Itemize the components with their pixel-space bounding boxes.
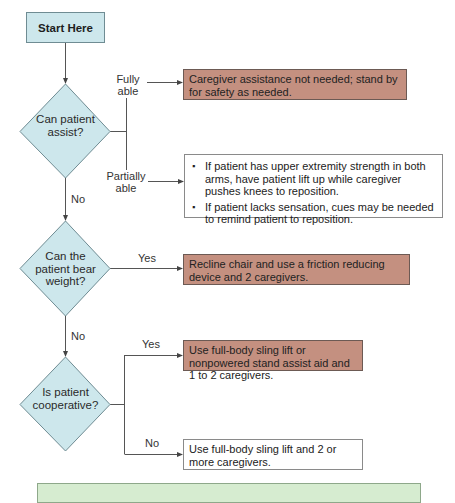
outcome-cooperative-no: Use full-body sling lift and 2 or more c… <box>183 439 363 470</box>
edge-label-no-weight: No <box>71 330 85 342</box>
outcome-partially-able: If patient has upper extremity strength … <box>184 154 443 218</box>
outcome-fully-able: Caregiver assistance not needed; stand b… <box>183 69 407 100</box>
partially-able-bullet-2: If patient lacks sensation, cues may be … <box>205 201 437 226</box>
edge-label-fully-able: Fully able <box>112 73 144 97</box>
partially-able-bullet-1: If patient has upper extremity strength … <box>205 160 437 198</box>
start-node: Start Here <box>26 12 105 43</box>
decision-label-can-patient-assist: Can patient assist? <box>35 113 96 138</box>
outcome-bear-weight-yes: Recline chair and use a friction reducin… <box>183 254 410 285</box>
edge-label-partially-able: Partially able <box>104 170 148 194</box>
footer-note-box <box>37 483 421 503</box>
outcome-bear-weight-yes-text: Recline chair and use a friction reducin… <box>189 258 385 283</box>
decision-label-bear-weight: Can the patient bear weight? <box>33 250 98 288</box>
edge-label-no-assist: No <box>71 193 85 205</box>
start-label: Start Here <box>38 22 93 34</box>
outcome-cooperative-no-text: Use full-body sling lift and 2 or more c… <box>189 443 336 468</box>
edge-label-yes-weight: Yes <box>138 252 156 264</box>
outcome-fully-able-text: Caregiver assistance not needed; stand b… <box>189 73 398 98</box>
decision-label-cooperative: Is patient cooperative? <box>29 386 102 411</box>
edge-label-yes-cooperative: Yes <box>142 338 160 350</box>
edge-label-no-cooperative: No <box>145 437 159 449</box>
outcome-cooperative-yes: Use full-body sling lift or nonpowered s… <box>183 340 363 371</box>
